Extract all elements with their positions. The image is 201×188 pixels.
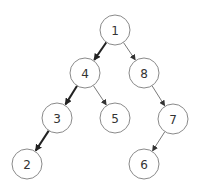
- tree-node-1: 1: [100, 15, 130, 45]
- node-label: 4: [81, 67, 89, 81]
- node-label: 6: [140, 158, 148, 172]
- edge-7-to-6: [153, 132, 165, 151]
- node-label: 5: [111, 112, 119, 126]
- tree-node-6: 6: [129, 149, 159, 179]
- tree-node-8: 8: [129, 58, 159, 88]
- edge-1-to-4: [94, 42, 106, 60]
- node-label: 7: [169, 113, 177, 127]
- edge-4-to-3: [66, 86, 78, 105]
- tree-diagram: 14835726: [0, 0, 201, 188]
- tree-node-7: 7: [158, 104, 188, 134]
- node-label: 2: [23, 158, 31, 172]
- node-layer: 14835726: [12, 15, 188, 179]
- tree-node-3: 3: [42, 103, 72, 133]
- tree-node-4: 4: [70, 58, 100, 88]
- edge-8-to-7: [152, 86, 165, 106]
- node-label: 1: [111, 24, 119, 38]
- edge-1-to-8: [123, 42, 135, 59]
- node-label: 3: [53, 112, 61, 126]
- tree-node-2: 2: [12, 149, 42, 179]
- edge-3-to-2: [36, 131, 49, 151]
- tree-node-5: 5: [100, 103, 130, 133]
- edge-4-to-5: [93, 86, 106, 105]
- node-label: 8: [140, 67, 148, 81]
